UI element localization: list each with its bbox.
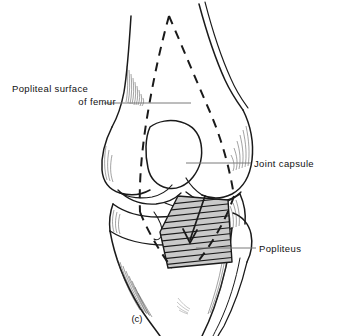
tibial-shaft-medial-hatch [117,258,152,317]
femur-shaft-medial-border [112,16,131,127]
fibula-head [233,213,252,262]
label-popliteal-surface-of-femur: Popliteal surface of femur [12,82,116,108]
soft-tissue-tuft-detail [177,298,190,314]
capsule-upper-lateral-limb [169,16,234,196]
popliteus-muscle [152,196,236,272]
femur-shaft-lateral-border [199,4,243,110]
tibial-plateau-medial-hatch [113,210,121,234]
lateral-condyle-hatch [231,126,249,171]
intercondylar-fossa [146,121,202,189]
medial-femoral-condyle [102,127,150,195]
lateral-femoral-condyle [202,110,253,198]
bone-shading-hatching [105,66,249,317]
figure-caption: (c) [123,313,151,324]
medial-condyle-hatch [105,146,113,182]
anatomical-figure-knee-posterior: Popliteal surface of femur Joint capsule… [0,0,356,336]
label-popliteus: Popliteus [259,242,301,255]
femur-shaft-lateral-border-inner [205,2,248,108]
bone-outlines [102,2,253,336]
lateral-condyle-articular-margin [186,178,202,195]
label-popliteal-surface-line2: of femur [12,95,116,108]
label-joint-capsule: Joint capsule [254,157,314,170]
femur-shaft-medial-hatch [126,66,144,106]
capsule-upper-medial-limb [140,16,169,212]
label-popliteal-surface-line1: Popliteal surface [12,82,116,95]
